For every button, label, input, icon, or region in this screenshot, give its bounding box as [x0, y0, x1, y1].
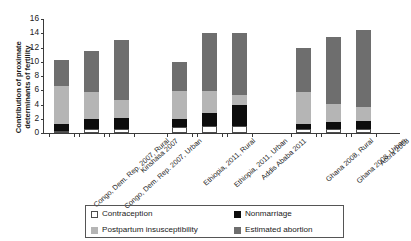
y-tick-label: 14: [17, 27, 39, 38]
bar-segment-contraception: [54, 131, 69, 133]
y-tick-10: 10: [43, 62, 44, 63]
y-tick-4: 4: [43, 105, 44, 106]
y-tick-8: 8: [43, 76, 44, 77]
bar-segment-contraception: [84, 129, 99, 133]
y-tick-mark: [41, 90, 44, 91]
bar-segment-contraception: [356, 129, 371, 133]
bar-segment-postpartum: [84, 92, 99, 119]
x-tick-mark: [222, 133, 223, 137]
x-tick-mark: [291, 133, 292, 137]
bar-segment-postpartum: [296, 92, 311, 124]
plot-area: 0246810121416 Congo, Dem. Rep. 2007, Rur…: [44, 19, 400, 133]
legend-swatch-abortion: [234, 227, 241, 234]
bar-segment-postpartum: [326, 104, 341, 122]
x-tick-mark: [134, 133, 135, 137]
bar-segment-nonmarriage: [356, 121, 371, 129]
x-tick-mark: [192, 133, 193, 137]
bar-segment-contraception: [202, 126, 217, 133]
bar-segment-abortion: [356, 30, 371, 108]
legend-swatch-contraception: [91, 211, 98, 218]
bar-segment-contraception: [232, 126, 247, 133]
bar-segment-nonmarriage: [326, 122, 341, 129]
x-tick-mark: [321, 133, 322, 137]
chart-legend: Contraception Nonmarriage Postpartum ins…: [85, 205, 344, 238]
x-tick-mark: [351, 133, 352, 137]
bar-segment-abortion: [326, 37, 341, 104]
y-tick-label: 2: [17, 113, 39, 124]
y-tick-0: 0: [43, 133, 44, 134]
bar-6[interactable]: [296, 48, 311, 133]
x-tick-mark: [109, 133, 110, 137]
bar-segment-abortion: [202, 33, 217, 91]
legend-swatch-postpartum: [91, 227, 98, 234]
legend-item-contraception: Contraception: [91, 209, 234, 219]
y-tick-label: 8: [17, 70, 39, 81]
legend-item-nonmarriage: Nonmarriage: [234, 209, 350, 219]
bar-1[interactable]: [84, 51, 99, 133]
y-tick-16: 16: [43, 19, 44, 20]
bar-segment-contraception: [296, 129, 311, 133]
y-tick-label: 6: [17, 84, 39, 95]
x-tick-mark: [104, 133, 105, 137]
bar-segment-nonmarriage: [84, 119, 99, 129]
bar-segment-abortion: [232, 33, 247, 95]
bar-segment-postpartum: [54, 86, 69, 124]
bar-segment-postpartum: [172, 91, 187, 120]
y-tick-14: 14: [43, 33, 44, 34]
bar-4[interactable]: [202, 33, 217, 133]
bar-segment-nonmarriage: [232, 105, 247, 126]
bar-segment-contraception: [172, 127, 187, 133]
y-tick-label: 0: [17, 127, 39, 138]
legend-swatch-nonmarriage: [234, 211, 241, 218]
x-tick-mark: [167, 133, 168, 137]
bar-segment-postpartum: [232, 95, 247, 104]
y-tick-mark: [41, 105, 44, 106]
legend-label-postpartum: Postpartum insusceptibility: [102, 225, 198, 235]
y-tick-label: 16: [17, 13, 39, 24]
bar-0[interactable]: [54, 60, 69, 133]
x-tick-mark: [376, 133, 377, 137]
bar-segment-nonmarriage: [172, 119, 187, 126]
bar-segment-nonmarriage: [114, 118, 129, 129]
x-tick-mark: [346, 133, 347, 137]
bar-segment-abortion: [54, 60, 69, 86]
y-tick-mark: [41, 62, 44, 63]
y-tick-2: 2: [43, 119, 44, 120]
bar-segment-abortion: [114, 40, 129, 100]
bar-segment-nonmarriage: [202, 113, 217, 126]
legend-label-abortion: Estimated abortion: [245, 225, 313, 235]
bar-segment-contraception: [114, 129, 129, 133]
y-tick-mark: [41, 133, 44, 134]
legend-item-abortion: Estimated abortion: [234, 225, 350, 235]
legend-label-contraception: Contraception: [102, 209, 152, 219]
bar-segment-abortion: [84, 51, 99, 92]
legend-label-nonmarriage: Nonmarriage: [245, 209, 292, 219]
bar-segment-postpartum: [356, 107, 371, 121]
y-tick-label: 10: [17, 56, 39, 67]
legend-item-postpartum: Postpartum insusceptibility: [91, 225, 234, 235]
x-tick-mark: [74, 133, 75, 137]
bar-7[interactable]: [326, 37, 341, 133]
x-tick-mark: [79, 133, 80, 137]
y-tick-mark: [41, 33, 44, 34]
y-tick-mark: [41, 48, 44, 49]
y-tick-mark: [41, 19, 44, 20]
bar-segment-nonmarriage: [54, 124, 69, 131]
bar-5[interactable]: [232, 33, 247, 133]
y-tick-mark: [41, 119, 44, 120]
bar-2[interactable]: [114, 40, 129, 133]
bar-segment-postpartum: [114, 100, 129, 119]
y-tick-6: 6: [43, 90, 44, 91]
y-tick-label: 12: [17, 42, 39, 53]
x-tick-mark: [49, 133, 50, 137]
bar-segment-postpartum: [202, 91, 217, 113]
y-tick-label: 4: [17, 99, 39, 110]
bar-segment-abortion: [172, 62, 187, 91]
bar-segment-abortion: [296, 48, 311, 91]
bar-segment-contraception: [326, 129, 341, 133]
x-axis-label-3: Ethiopia, 2011, Rural: [202, 137, 257, 188]
x-tick-mark: [227, 133, 228, 137]
bar-3[interactable]: [172, 62, 187, 133]
bar-8[interactable]: [356, 30, 371, 133]
